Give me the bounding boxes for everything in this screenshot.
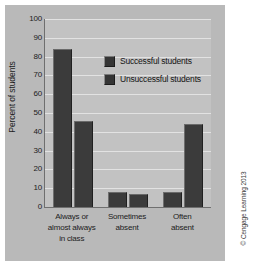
x-axis-label-line: Sometimes bbox=[99, 211, 154, 222]
legend-swatch-icon bbox=[104, 56, 115, 67]
bar bbox=[129, 194, 148, 207]
x-axis-label-line: Often bbox=[155, 211, 210, 222]
legend-item: Successful students bbox=[104, 53, 208, 69]
bar bbox=[163, 192, 182, 207]
y-axis-tick-label: 100 bbox=[8, 15, 42, 23]
y-axis-title: Percent of students bbox=[7, 37, 17, 157]
legend-swatch-icon bbox=[104, 74, 115, 85]
bar bbox=[74, 121, 93, 207]
legend-label: Unsuccessful students bbox=[120, 74, 201, 84]
y-axis-tick-label: 20 bbox=[8, 165, 42, 173]
x-axis-label-line: in class bbox=[44, 233, 99, 244]
plot-area bbox=[44, 19, 211, 208]
x-axis-label-line: absent bbox=[155, 222, 210, 233]
y-axis-tick-label: 0 bbox=[8, 203, 42, 211]
x-axis-label-line: Always or bbox=[44, 211, 99, 222]
legend-label: Successful students bbox=[120, 56, 192, 66]
x-axis-category-labels: Always oralmost alwaysin classSometimesa… bbox=[44, 211, 211, 257]
x-axis-category-label: Always oralmost alwaysin class bbox=[44, 211, 99, 244]
chart-figure: 0102030405060708090100 Percent of studen… bbox=[0, 0, 253, 266]
bar bbox=[53, 49, 72, 207]
bar bbox=[108, 192, 127, 207]
copyright-notice: © Cengage Learning 2013 bbox=[240, 146, 247, 246]
x-axis-label-line: absent bbox=[99, 222, 154, 233]
bar bbox=[184, 124, 203, 207]
x-axis-label-line: almost always bbox=[44, 222, 99, 233]
y-axis-tick-label: 10 bbox=[8, 184, 42, 192]
chart-legend: Successful studentsUnsuccessful students bbox=[104, 53, 208, 89]
x-axis-category-label: Oftenabsent bbox=[155, 211, 210, 233]
x-axis-category-label: Sometimesabsent bbox=[99, 211, 154, 233]
legend-item: Unsuccessful students bbox=[104, 71, 208, 87]
gridline bbox=[45, 38, 211, 39]
gridline bbox=[45, 19, 211, 20]
